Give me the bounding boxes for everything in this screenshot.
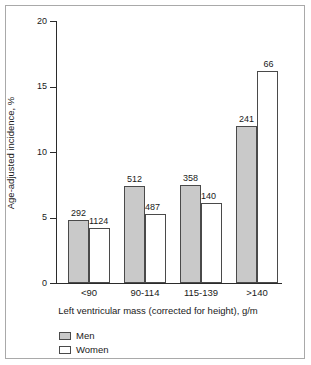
bar-women-115-139[interactable] [201,203,222,283]
y-tick-label-5: 5 [17,213,47,222]
bar-label-men-115-139: 358 [174,174,207,183]
y-tick-20 [50,21,57,22]
y-tick-label-15: 15 [17,82,47,91]
bar-label-women-lt90: 1124 [89,217,122,226]
bar-label-women-gt140: 66 [252,60,285,69]
bar-label-men-gt140: 241 [230,115,263,124]
bar-label-women-115-139: 140 [201,192,234,201]
legend-label-men: Men [76,331,94,341]
y-tick-10 [50,152,57,153]
x-tick-label-gt140: >140 [231,288,283,298]
x-axis-title: Left ventricular mass (corrected for hei… [18,305,298,316]
legend-label-women: Women [76,345,109,355]
legend-item-men[interactable]: Men [59,330,109,342]
figure-container: 20 15 10 5 0 Age-adjusted incidence, % 2… [0,0,311,365]
bar-women-90-114[interactable] [145,214,166,283]
y-tick-label-10: 10 [17,148,47,157]
bar-men-gt140[interactable] [236,126,257,283]
legend-swatch-women-icon [59,346,71,354]
x-tick-label-lt90: <90 [63,288,115,298]
bar-women-gt140[interactable] [257,71,278,283]
bar-men-115-139[interactable] [180,185,201,283]
x-tick-label-90-114: 90-114 [119,288,171,298]
legend-item-women[interactable]: Women [59,344,109,356]
y-tick-15 [50,87,57,88]
bar-men-lt90[interactable] [68,220,89,283]
y-tick-label-0: 0 [17,279,47,288]
y-tick-label-20: 20 [17,17,47,26]
bar-label-men-90-114: 512 [118,175,151,184]
bar-label-women-90-114: 487 [145,203,178,212]
bar-men-90-114[interactable] [124,186,145,283]
y-tick-0 [50,283,57,284]
y-tick-5 [50,218,57,219]
y-axis-title: Age-adjusted incidence, % [6,63,16,243]
chart-legend: Men Women [59,330,109,358]
legend-swatch-men-icon [59,332,71,340]
bar-women-lt90[interactable] [89,228,110,283]
x-tick-label-115-139: 115-139 [175,288,227,298]
